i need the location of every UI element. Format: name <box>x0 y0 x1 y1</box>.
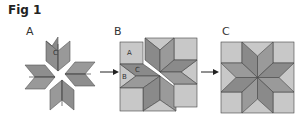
panel-a-star <box>25 37 95 110</box>
quilt-diagram: C A B C <box>0 0 308 116</box>
piece-label-a: A <box>127 49 132 57</box>
piece-label-c-b: C <box>135 66 140 74</box>
arrow-b-to-c <box>201 69 219 75</box>
arrow-a-to-b <box>100 69 119 75</box>
piece-label-c-a: C <box>53 49 58 57</box>
panel-c-block <box>221 42 294 113</box>
piece-label-b: B <box>122 73 127 81</box>
